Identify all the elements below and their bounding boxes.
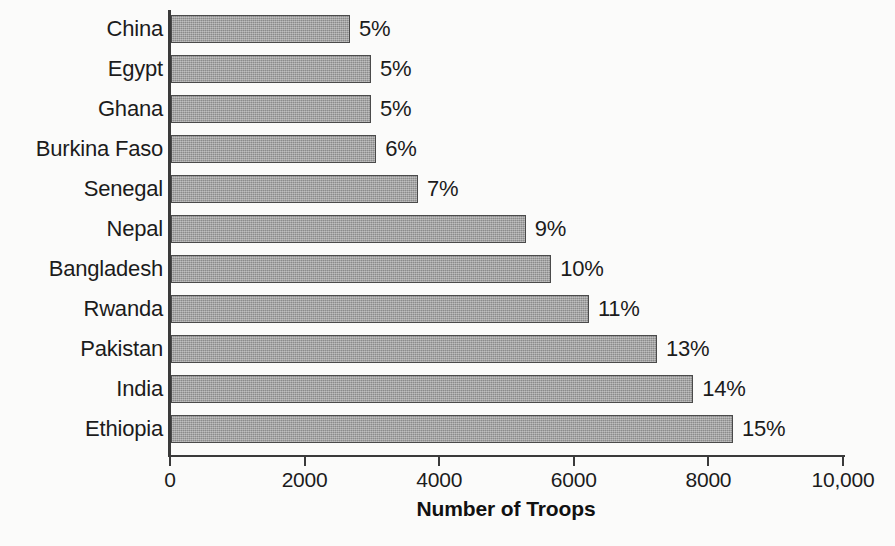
category-label: Rwanda	[83, 296, 163, 322]
bar	[171, 55, 371, 83]
category-label: Ghana	[98, 96, 163, 122]
x-tick-mark	[573, 457, 575, 466]
x-axis-line	[168, 455, 845, 457]
bar-row: Egypt5%	[0, 55, 895, 83]
x-tick-mark	[842, 457, 844, 466]
bar-value-label: 7%	[427, 176, 458, 202]
x-tick-label: 2000	[282, 468, 328, 492]
category-label: Ethiopia	[85, 416, 163, 442]
category-label: Senegal	[84, 176, 163, 202]
bar	[171, 15, 350, 43]
bar	[171, 415, 733, 443]
x-tick-mark	[169, 457, 171, 466]
bar-row: Ethiopia15%	[0, 415, 895, 443]
x-tick-mark	[438, 457, 440, 466]
bar-row: Ghana5%	[0, 95, 895, 123]
bar	[171, 255, 551, 283]
bar-value-label: 5%	[359, 16, 390, 42]
x-tick-label: 4000	[416, 468, 462, 492]
bar-row: Burkina Faso6%	[0, 135, 895, 163]
category-label: Nepal	[107, 216, 163, 242]
category-label: Pakistan	[80, 336, 163, 362]
bar	[171, 375, 693, 403]
bar-row: India14%	[0, 375, 895, 403]
bar-row: Bangladesh10%	[0, 255, 895, 283]
bar-value-label: 9%	[535, 216, 566, 242]
bar	[171, 95, 371, 123]
bar-row: Pakistan13%	[0, 335, 895, 363]
bar-row: Nepal9%	[0, 215, 895, 243]
bar-value-label: 6%	[385, 136, 416, 162]
x-tick-label: 0	[164, 468, 175, 492]
category-label: Egypt	[108, 56, 163, 82]
x-tick-label: 10,000	[811, 468, 874, 492]
bar-value-label: 15%	[742, 416, 785, 442]
bar-value-label: 10%	[560, 256, 603, 282]
x-tick-mark	[304, 457, 306, 466]
bar	[171, 175, 418, 203]
bar-row: Rwanda11%	[0, 295, 895, 323]
bar-chart: 0200040006000800010,000 China5%Egypt5%Gh…	[0, 0, 895, 546]
x-tick-label: 8000	[685, 468, 731, 492]
bar-value-label: 13%	[666, 336, 709, 362]
bar-value-label: 14%	[702, 376, 745, 402]
bar-value-label: 5%	[380, 56, 411, 82]
bar-row: China5%	[0, 15, 895, 43]
category-label: China	[107, 16, 163, 42]
bar	[171, 335, 657, 363]
bar-row: Senegal7%	[0, 175, 895, 203]
bar	[171, 215, 526, 243]
bar	[171, 295, 589, 323]
category-label: Burkina Faso	[36, 136, 163, 162]
category-label: Bangladesh	[49, 256, 163, 282]
bar	[171, 135, 376, 163]
chart-page: 0200040006000800010,000 China5%Egypt5%Gh…	[0, 0, 895, 546]
x-tick-label: 6000	[551, 468, 597, 492]
bar-value-label: 5%	[380, 96, 411, 122]
x-tick-mark	[707, 457, 709, 466]
bar-value-label: 11%	[598, 296, 640, 322]
x-axis-title: Number of Troops	[416, 497, 595, 521]
category-label: India	[116, 376, 163, 402]
